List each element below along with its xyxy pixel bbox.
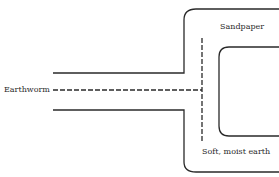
t-maze-diagram: Earthworm Sandpaper Soft, moist earth bbox=[0, 0, 279, 177]
earthworm-label: Earthworm bbox=[4, 85, 50, 95]
sandpaper-label: Sandpaper bbox=[220, 22, 264, 32]
soft-moist-earth-label: Soft, moist earth bbox=[202, 147, 270, 157]
inner-divider-wall bbox=[219, 47, 279, 136]
upper-outer-wall bbox=[53, 9, 279, 73]
lower-outer-wall bbox=[53, 110, 279, 172]
